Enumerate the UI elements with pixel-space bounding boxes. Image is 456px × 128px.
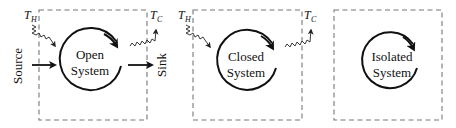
open-system-label-line1: Open <box>76 47 105 62</box>
source-label: Source <box>10 48 25 84</box>
closed-system-label-line2: System <box>227 65 265 80</box>
open-system-label-line2: System <box>71 63 109 78</box>
closed-system: Closed System T H T C <box>178 8 317 120</box>
closed-cold-temperature-subscript: C <box>311 15 317 24</box>
open-heat-in-wavy-arrow-icon <box>32 25 55 46</box>
isolated-system-label-line1: Isolated <box>371 49 413 64</box>
isolated-system: Isolated System <box>334 10 442 120</box>
isolated-system-label-line2: System <box>373 65 411 80</box>
sink-label: Sink <box>154 53 169 77</box>
closed-heat-in-wavy-arrow-icon <box>186 25 210 47</box>
open-system: Open System T H T C Source Sink <box>10 8 169 120</box>
closed-hot-temperature-subscript: H <box>184 15 192 24</box>
closed-system-label-line1: Closed <box>228 49 265 64</box>
closed-heat-out-wavy-arrow-icon <box>285 30 311 47</box>
thermodynamic-systems-diagram: Open System T H T C Source Sink Closed S… <box>0 0 456 128</box>
open-hot-temperature-subscript: H <box>30 15 38 24</box>
open-heat-out-wavy-arrow-icon <box>130 30 156 46</box>
open-cold-temperature-subscript: C <box>157 15 163 24</box>
